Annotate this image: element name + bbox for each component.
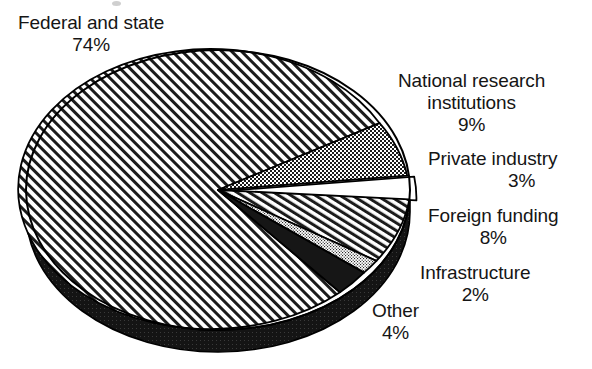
slice-label-other: Other 4% [372,300,419,344]
slice-label-national-research-line1: National research [398,70,545,92]
slice-label-federal-and-state-percent: 74% [18,34,164,56]
slice-label-other-text: Other [372,300,419,322]
slice-label-foreign-funding: Foreign funding 8% [428,205,559,249]
slice-label-national-research-line2: institutions [398,92,545,114]
slice-label-national-research-institutions: National research institutions 9% [398,70,545,136]
pie-chart-figure: Federal and state 74% National research … [0,0,592,369]
slice-label-federal-and-state: Federal and state 74% [18,12,164,56]
slice-label-other-percent: 4% [372,322,419,344]
slice-label-foreign-funding-text: Foreign funding [428,205,559,227]
slice-label-foreign-funding-percent: 8% [428,227,559,249]
slice-label-federal-and-state-text: Federal and state [18,12,164,34]
slice-label-infrastructure-text: Infrastructure [420,262,531,284]
slice-label-infrastructure-percent: 2% [420,284,531,306]
slice-label-private-industry-text: Private industry [428,148,557,170]
slice-label-national-research-percent: 9% [398,114,545,136]
slice-label-infrastructure: Infrastructure 2% [420,262,531,306]
slice-label-private-industry-percent: 3% [428,170,557,192]
slice-label-private-industry: Private industry 3% [428,148,557,192]
